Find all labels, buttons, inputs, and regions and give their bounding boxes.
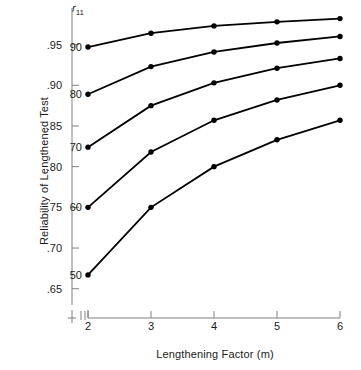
data-point-marker: [148, 103, 153, 108]
series-line: [88, 120, 340, 275]
data-point-marker: [148, 205, 153, 210]
series-label: 60: [58, 201, 82, 213]
data-point-marker: [211, 164, 216, 169]
axes: [68, 8, 340, 323]
chart-figure: Reliability of Lengthened Test Lengtheni…: [0, 0, 361, 370]
x-axis-tick-label: 4: [199, 320, 229, 332]
data-point-marker: [148, 31, 153, 36]
data-point-marker: [274, 137, 279, 142]
x-axis-tick-label: 3: [136, 320, 166, 332]
series-line: [88, 19, 340, 47]
series-line: [88, 85, 340, 207]
data-point-marker: [274, 97, 279, 102]
series-line: [88, 58, 340, 147]
data-point-marker: [85, 92, 90, 97]
data-series: [85, 16, 342, 278]
data-point-marker: [274, 40, 279, 45]
data-point-marker: [211, 23, 216, 28]
x-axis-tick-label: 6: [325, 320, 355, 332]
data-point-marker: [337, 118, 342, 123]
series-label: 90: [58, 41, 82, 53]
data-point-marker: [85, 272, 90, 277]
data-point-marker: [337, 56, 342, 61]
data-point-marker: [85, 144, 90, 149]
data-point-marker: [211, 80, 216, 85]
data-point-marker: [274, 66, 279, 71]
data-point-marker: [148, 64, 153, 69]
x-axis-tick-label: 2: [73, 320, 103, 332]
data-point-marker: [337, 34, 342, 39]
data-point-marker: [337, 16, 342, 21]
data-point-marker: [211, 118, 216, 123]
data-point-marker: [148, 149, 153, 154]
plot-area: [0, 0, 361, 370]
series-label: 50: [58, 269, 82, 281]
x-axis-tick-label: 5: [262, 320, 292, 332]
data-point-marker: [85, 205, 90, 210]
series-label: 80: [58, 88, 82, 100]
data-point-marker: [85, 44, 90, 49]
data-point-marker: [211, 49, 216, 54]
data-point-marker: [274, 19, 279, 24]
data-point-marker: [337, 83, 342, 88]
series-line: [88, 36, 340, 94]
series-label: 70: [58, 141, 82, 153]
